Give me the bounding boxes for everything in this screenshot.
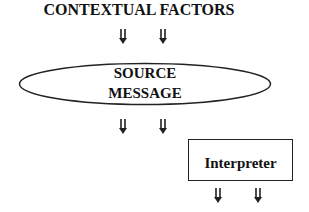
interpreter-box: Interpreter xyxy=(188,139,293,181)
interpreter-label: Interpreter xyxy=(189,155,292,172)
down-arrow-icon xyxy=(158,119,168,135)
source-message-label: SOURCE MESSAGE xyxy=(18,63,272,103)
down-arrow-icon xyxy=(118,29,128,45)
down-arrow-icon xyxy=(253,188,263,204)
down-arrow-icon xyxy=(118,119,128,135)
message-label: MESSAGE xyxy=(18,83,272,103)
down-arrow-icon xyxy=(213,188,223,204)
contextual-factors-title: CONTEXTUAL FACTORS xyxy=(0,1,278,19)
source-label: SOURCE xyxy=(18,63,272,83)
down-arrow-icon xyxy=(158,29,168,45)
